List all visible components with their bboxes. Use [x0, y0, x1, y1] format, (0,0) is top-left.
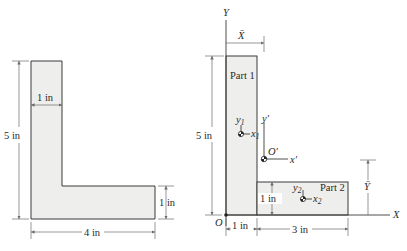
- right-height-label: 5 in: [196, 130, 213, 141]
- x-axis-label: X: [392, 209, 400, 220]
- x-prime-label: x′: [289, 154, 298, 165]
- origin-point: [224, 213, 228, 217]
- y-prime-label: y′: [261, 113, 270, 124]
- ybar-dimension: Ȳ: [360, 160, 376, 215]
- right-figure: Y X O X̄ 5 in Part 1 Part 2 y1 x1: [196, 7, 400, 236]
- flange-thickness-label: 1 in: [159, 197, 176, 208]
- xbar-label: X̄: [237, 30, 245, 41]
- part-1-label: Part 1: [230, 70, 255, 81]
- right-height-dimension: 5 in: [196, 56, 224, 215]
- part-1-width-label: 1 in: [232, 220, 249, 231]
- composite-area-diagram: 5 in 1 in 1 in 4 in Y: [0, 0, 407, 251]
- width-dimension: 4 in: [31, 222, 155, 239]
- part-2-height-label: 1 in: [260, 193, 277, 204]
- origin-label: O: [215, 217, 223, 228]
- web-thickness-label: 1 in: [37, 92, 54, 103]
- y-axis-label: Y: [223, 7, 230, 18]
- left-figure: 5 in 1 in 1 in 4 in: [4, 61, 176, 239]
- ybar-label: Ȳ: [364, 181, 371, 192]
- bottom-dimensions: 1 in 3 in: [226, 218, 348, 236]
- part-2-label: Part 2: [320, 182, 345, 193]
- height-dimension: 5 in: [4, 61, 29, 219]
- height-label: 5 in: [4, 130, 21, 141]
- local-origin: y′ x′ O′: [261, 113, 298, 165]
- width-label: 4 in: [84, 227, 101, 238]
- flange-thickness-dimension: 1 in: [158, 186, 176, 219]
- o-prime-label: O′: [268, 146, 279, 157]
- l-section-shape: [31, 61, 155, 219]
- xbar-dimension: X̄: [226, 30, 264, 52]
- part-2-width-label: 3 in: [292, 224, 309, 235]
